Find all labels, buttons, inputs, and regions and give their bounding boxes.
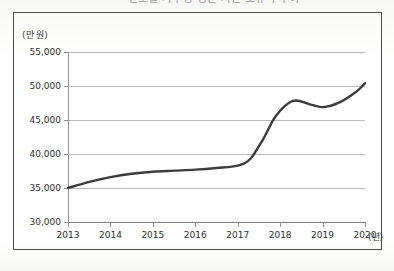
x-axis-tick-label: 2018 bbox=[269, 230, 292, 240]
y-axis-tick-label: 30,000 bbox=[30, 217, 62, 227]
y-axis-tick-label: 35,000 bbox=[30, 183, 62, 193]
y-axis-tick-label: 40,000 bbox=[30, 149, 62, 159]
x-axis-tick bbox=[365, 222, 366, 227]
x-axis-tick-label: 2014 bbox=[99, 230, 122, 240]
data-line-path bbox=[68, 83, 365, 188]
y-axis-tick-label: 50,000 bbox=[30, 81, 62, 91]
x-axis-tick-label: 2017 bbox=[226, 230, 249, 240]
x-axis-tick-label: 2019 bbox=[311, 230, 334, 240]
y-axis-labels-group: 30,00035,00040,00045,00050,00055,000 bbox=[0, 0, 61, 271]
chart-page: 연도별 가구당 평균 자산 보유액 추이 (만 원) 30,00035,0004… bbox=[0, 0, 394, 271]
y-axis-tick-label: 45,000 bbox=[30, 115, 62, 125]
x-axis-unit-label: (년) bbox=[368, 230, 383, 243]
x-axis-tick-label: 2016 bbox=[184, 230, 207, 240]
x-axis-tick-label: 2015 bbox=[141, 230, 164, 240]
y-axis-tick-label: 55,000 bbox=[30, 47, 62, 57]
x-axis-tick-label: 2013 bbox=[57, 230, 80, 240]
data-line-series bbox=[68, 52, 365, 223]
chart-title-text: 연도별 가구당 평균 자산 보유액 추이 bbox=[128, 0, 299, 5]
